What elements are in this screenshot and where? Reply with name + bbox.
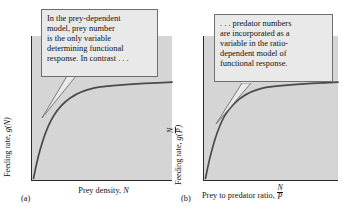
callout-a-line-2: is the only variable xyxy=(47,34,152,44)
x-axis-label-b-frac-den: P xyxy=(277,193,283,201)
y-axis-label-a-text: Feeding rate, xyxy=(3,132,12,177)
y-axis-label-b-fn-prefix: g( xyxy=(174,134,183,141)
callout-b-line-1: are incorporated as a xyxy=(220,29,327,39)
y-axis-label-b-frac-den: P xyxy=(176,127,184,133)
panel-letter-b: (b) xyxy=(181,194,191,203)
y-axis-label-a-fn-var: N xyxy=(3,120,12,125)
x-axis-label-a: Prey density, N xyxy=(46,186,161,195)
callout-a-line-3: determining functional xyxy=(47,44,152,54)
y-axis-label-a-fn-prefix: g( xyxy=(3,126,12,133)
callout-b-line-0: . . . predator numbers xyxy=(220,19,327,29)
y-axis-label-b: Feeding rate, g(NP) xyxy=(169,125,186,185)
y-axis-label-b-text: Feeding rate, xyxy=(174,140,183,185)
x-axis-label-b-fraction: NP xyxy=(277,184,283,201)
panel-a: Feeding rate, g(N) Prey density, N (a) I… xyxy=(0,0,178,210)
y-axis-label-a: Feeding rate, g(N) xyxy=(3,117,12,177)
callout-a-line-1: model, prey number xyxy=(47,24,152,34)
x-axis-label-b: Prey to predator ratio, NP xyxy=(202,186,342,203)
panel-letter-a: (a) xyxy=(21,194,30,203)
callout-b-line-4: functional response. xyxy=(220,59,327,69)
panel-b: Feeding rate, g(NP) Prey to predator rat… xyxy=(178,0,350,210)
x-axis-label-b-text: Prey to predator ratio, xyxy=(202,191,277,200)
y-axis-label-b-fraction: NP xyxy=(167,127,184,133)
callout-tail-b xyxy=(202,78,272,138)
figure-root: Feeding rate, g(N) Prey density, N (a) I… xyxy=(0,0,350,210)
callout-a-line-4: response. In contrast . . . xyxy=(47,54,152,64)
x-axis-label-a-var: N xyxy=(123,186,129,195)
x-axis-label-a-text: Prey density, xyxy=(78,186,123,195)
callout-a-line-0: In the prey-dependent xyxy=(47,14,152,24)
callout-tail-a xyxy=(30,70,100,130)
callout-b-line-2: variable in the ratio- xyxy=(220,39,327,49)
callout-b: . . . predator numbers are incorporated … xyxy=(214,14,333,82)
callout-b-line-3: dependent model of xyxy=(220,49,327,59)
y-axis-label-a-fn-suffix: ) xyxy=(3,117,12,120)
callout-a: In the prey-dependent model, prey number… xyxy=(41,9,158,77)
